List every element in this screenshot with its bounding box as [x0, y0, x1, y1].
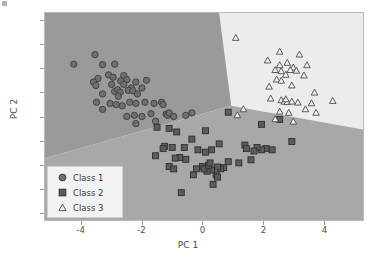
y-tick-mark: [40, 213, 44, 214]
data-point: [160, 146, 166, 152]
legend-item-class-1: Class 1: [48, 170, 122, 185]
data-point: [92, 51, 98, 57]
data-point: [121, 81, 127, 87]
y-tick-mark: [40, 141, 44, 142]
data-point: [295, 99, 302, 105]
data-point: [313, 109, 320, 115]
x-tick-label: -4: [76, 225, 84, 235]
x-tick-mark: [263, 221, 264, 225]
data-point: [289, 139, 295, 145]
data-point: [171, 166, 177, 172]
data-point: [127, 99, 133, 105]
square-marker-icon: [54, 188, 70, 197]
x-tick-mark: [202, 221, 203, 225]
data-point: [142, 99, 148, 105]
y-tick-mark: [40, 44, 44, 45]
data-point: [181, 144, 187, 150]
data-point: [119, 103, 125, 109]
data-point: [234, 112, 241, 118]
data-point: [110, 74, 116, 80]
triangle-marker-icon: [54, 203, 70, 212]
data-point: [153, 153, 159, 159]
data-point: [124, 113, 130, 119]
y-axis-label: PC 2: [9, 79, 19, 139]
data-point: [134, 91, 140, 97]
corner-artifact: [2, 1, 7, 6]
data-point: [278, 68, 285, 74]
series-class-2: [153, 109, 295, 195]
data-point: [99, 61, 105, 67]
data-point: [133, 100, 139, 106]
data-point: [276, 48, 283, 54]
data-point: [189, 136, 195, 142]
y-tick-mark: [40, 165, 44, 166]
data-point: [148, 110, 154, 116]
data-point: [289, 82, 296, 88]
data-point: [276, 62, 283, 68]
data-point: [266, 83, 273, 89]
data-point: [183, 156, 189, 162]
data-point: [236, 160, 242, 166]
legend-label-class-1: Class 1: [73, 173, 103, 183]
data-point: [143, 77, 149, 83]
data-point: [154, 124, 160, 130]
scatter-plot-figure: 43210-1-2-3-4 -4-2024 PC 2 PC 1 Class 1 …: [0, 0, 376, 262]
y-tick-mark: [40, 68, 44, 69]
series-class-3: [233, 34, 336, 124]
y-tick-mark: [40, 117, 44, 118]
data-point: [251, 148, 257, 154]
data-point: [240, 106, 247, 112]
data-point: [302, 106, 309, 112]
data-point: [311, 89, 318, 95]
data-point: [329, 97, 336, 103]
data-point: [113, 101, 119, 107]
data-point: [193, 166, 199, 172]
data-point: [133, 79, 139, 85]
data-point: [166, 125, 172, 131]
data-point: [215, 174, 221, 180]
data-point: [296, 51, 303, 57]
data-point: [203, 128, 209, 134]
data-point: [243, 146, 249, 152]
data-point: [99, 91, 105, 97]
data-point: [259, 121, 265, 127]
x-tick-label: -2: [137, 225, 145, 235]
data-point: [172, 155, 178, 161]
data-point: [169, 144, 175, 150]
data-point: [133, 120, 139, 126]
data-point: [264, 57, 271, 63]
data-point: [203, 149, 209, 155]
x-tick-mark: [81, 221, 82, 225]
data-point: [139, 113, 145, 119]
x-tick-label: 2: [261, 225, 266, 235]
data-point: [171, 113, 177, 119]
data-point: [284, 59, 291, 65]
data-point: [269, 147, 275, 153]
data-point: [267, 95, 274, 101]
data-point: [108, 81, 114, 87]
x-tick-mark: [142, 221, 143, 225]
data-point: [308, 100, 315, 106]
data-point: [152, 118, 158, 124]
data-point: [160, 101, 166, 107]
data-point: [111, 61, 117, 67]
y-tick-mark: [40, 189, 44, 190]
data-point: [139, 85, 145, 91]
data-point: [107, 100, 113, 106]
series-class-1: [71, 51, 195, 126]
data-point: [215, 164, 221, 170]
data-point: [99, 106, 105, 112]
legend-label-class-3: Class 3: [73, 203, 103, 213]
data-point: [131, 112, 137, 118]
circle-marker-icon: [54, 173, 70, 182]
data-point: [290, 118, 297, 124]
x-axis-label: PC 1: [0, 240, 376, 250]
data-point: [183, 112, 189, 118]
y-tick-mark: [40, 20, 44, 21]
data-point: [207, 160, 213, 166]
data-point: [195, 147, 201, 153]
data-point: [225, 109, 231, 115]
data-point: [190, 172, 196, 178]
legend: Class 1 Class 2 Class 3: [47, 166, 123, 218]
legend-item-class-3: Class 3: [48, 200, 122, 215]
